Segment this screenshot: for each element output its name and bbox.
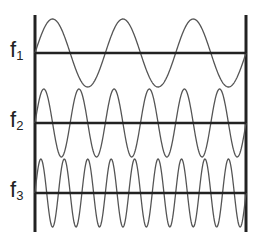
frequency-label-2: f2 bbox=[10, 107, 23, 133]
frequency-label-1: f1 bbox=[10, 37, 23, 63]
frequency-diagram: f1f2f3 bbox=[0, 0, 260, 243]
frequency-label-3: f3 bbox=[10, 177, 23, 203]
